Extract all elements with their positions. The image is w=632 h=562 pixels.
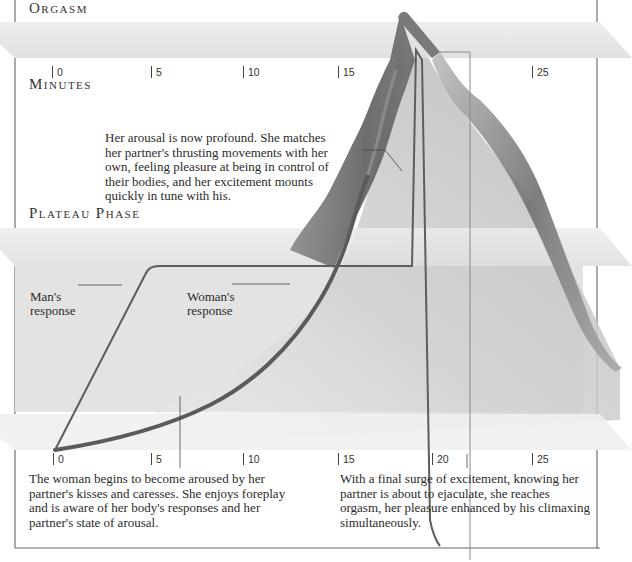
top-tick-10: 10: [243, 66, 260, 78]
arousal-diagram: Orgasm Minutes Plateau Phase 0 5 10 15 2…: [0, 0, 632, 562]
caption-plateau: Her arousal is now profound. She matches…: [105, 131, 329, 204]
axis-label-minutes: Minutes: [29, 76, 92, 93]
top-tick-25: 25: [532, 66, 549, 78]
caption-orgasm: With a final surge of excitement, knowin…: [340, 472, 590, 530]
phase-label-orgasm: Orgasm: [29, 0, 88, 17]
woman-response-label: Woman's response: [187, 290, 235, 318]
orgasm-band: [0, 22, 632, 58]
top-tick-5: 5: [151, 66, 162, 78]
man-response-label: Man's response: [30, 290, 76, 318]
bottom-tick-25: 25: [532, 453, 549, 465]
top-tick-0: 0: [52, 66, 63, 78]
bottom-tick-0: 0: [53, 453, 64, 465]
bottom-tick-5: 5: [151, 453, 162, 465]
bottom-tick-10: 10: [243, 453, 260, 465]
bottom-tick-20: 20: [432, 453, 449, 465]
caption-excitement: The woman begins to become aroused by he…: [29, 472, 285, 530]
top-tick-15: 15: [338, 66, 355, 78]
bottom-tick-15: 15: [338, 453, 355, 465]
phase-label-plateau: Plateau Phase: [29, 205, 140, 222]
